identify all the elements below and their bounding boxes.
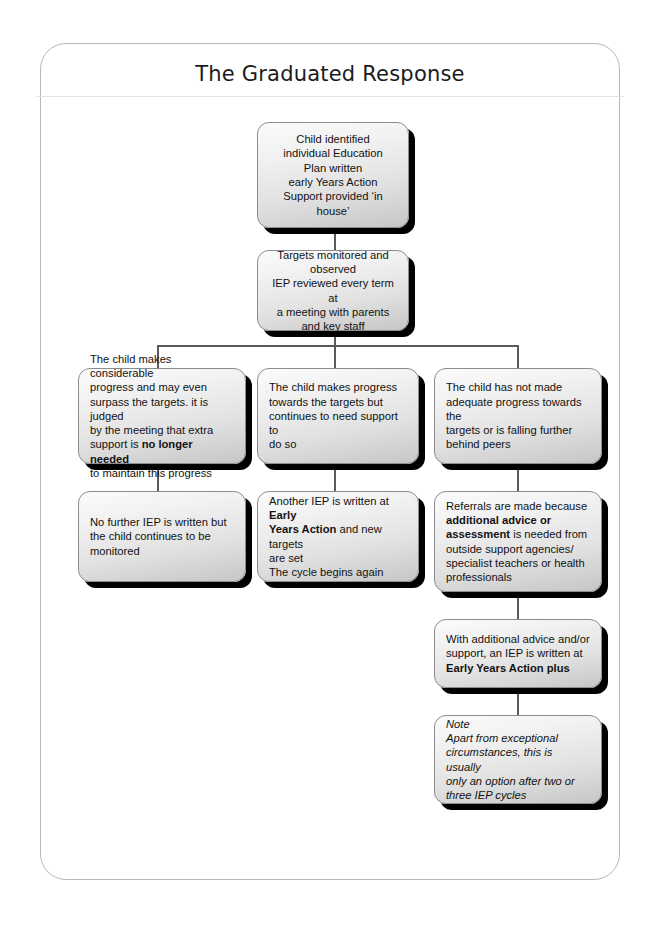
page-title: The Graduated Response	[0, 62, 660, 86]
text-line: a meeting with parents	[269, 305, 397, 319]
text-line: adequate progress towards the	[446, 395, 590, 424]
early-years-action-plus-box[interactable]: With additional advice and/orsupport, an…	[434, 619, 602, 688]
connector-split-to-n5	[517, 345, 519, 368]
text-line: are set	[269, 551, 407, 565]
text-line: observed	[269, 262, 397, 276]
note-box[interactable]: NoteApart from exceptionalcircumstances,…	[434, 715, 602, 804]
targets-monitored-box[interactable]: Targets monitored andobservedIEP reviewe…	[257, 250, 409, 331]
text-line: Years Action and new targets	[269, 522, 407, 551]
another-iep-box-text: Another IEP is written at EarlyYears Act…	[269, 494, 407, 580]
text-line: to maintain this progress	[90, 466, 234, 480]
text-line: The child makes progress	[269, 380, 407, 394]
connector-n5-to-n8	[517, 464, 519, 491]
text-line: Another IEP is written at Early	[269, 494, 407, 523]
makes-progress-needs-support-box-text: The child makes progresstowards the targ…	[269, 380, 407, 451]
text-line: The child has not made	[446, 380, 590, 394]
child-identified-box-text: Child identifiedindividual EducationPlan…	[269, 132, 397, 218]
text-line: Apart from exceptional	[446, 731, 590, 745]
text-line: Child identified	[269, 132, 397, 146]
text-line: additional advice or	[446, 513, 590, 527]
text-line: IEP reviewed every term at	[269, 276, 397, 305]
text-line: by the meeting that extra	[90, 423, 234, 437]
text-line: With additional advice and/or	[446, 632, 590, 646]
text-line: No further IEP is written but	[90, 515, 234, 529]
not-made-adequate-progress-box-text: The child has not madeadequate progress …	[446, 380, 590, 451]
text-line: assessment is needed from	[446, 527, 590, 541]
text-line: Support provided ‘in house’	[269, 189, 397, 218]
connector-n8-to-n9	[517, 592, 519, 619]
text-line: three IEP cycles	[446, 788, 590, 802]
referrals-made-box[interactable]: Referrals are made becauseadditional adv…	[434, 491, 602, 592]
child-identified-box[interactable]: Child identifiedindividual EducationPlan…	[257, 122, 409, 228]
text-line: progress and may even	[90, 380, 234, 394]
text-line: towards the targets but	[269, 395, 407, 409]
connector-n9-to-n10	[517, 688, 519, 715]
text-line: circumstances, this is usually	[446, 745, 590, 774]
text-line: only an option after two or	[446, 774, 590, 788]
no-further-iep-box-text: No further IEP is written butthe child c…	[90, 515, 234, 558]
connector-n4-to-n7	[334, 464, 336, 491]
text-line: Plan written	[269, 161, 397, 175]
text-line: professionals	[446, 570, 590, 584]
text-line: continues to need support to	[269, 409, 407, 438]
connector-split-to-n4	[334, 345, 336, 368]
text-line: The child makes considerable	[90, 352, 234, 381]
text-line: and key staff	[269, 319, 397, 333]
early-years-action-plus-box-text: With additional advice and/orsupport, an…	[446, 632, 590, 675]
text-line: targets or is falling further	[446, 423, 590, 437]
makes-progress-needs-support-box[interactable]: The child makes progresstowards the targ…	[257, 368, 419, 464]
text-line: The cycle begins again	[269, 565, 407, 579]
text-line: Early Years Action plus	[446, 661, 590, 675]
text-line: Targets monitored and	[269, 248, 397, 262]
text-line: outside support agencies/	[446, 542, 590, 556]
text-line: Note	[446, 717, 590, 731]
not-made-adequate-progress-box[interactable]: The child has not madeadequate progress …	[434, 368, 602, 464]
text-line: Referrals are made because	[446, 499, 590, 513]
text-line: specialist teachers or health	[446, 556, 590, 570]
title-divider	[36, 96, 624, 97]
connector-split-bar	[157, 345, 519, 347]
text-line: individual Education	[269, 146, 397, 160]
considerable-progress-box[interactable]: The child makes considerableprogress and…	[78, 368, 246, 464]
text-line: support is no longer needed	[90, 437, 234, 466]
text-line: behind peers	[446, 437, 590, 451]
another-iep-box[interactable]: Another IEP is written at EarlyYears Act…	[257, 491, 419, 582]
text-line: monitored	[90, 544, 234, 558]
text-line: early Years Action	[269, 175, 397, 189]
text-line: surpass the targets. it is judged	[90, 395, 234, 424]
text-line: support, an IEP is written at	[446, 646, 590, 660]
referrals-made-box-text: Referrals are made becauseadditional adv…	[446, 499, 590, 585]
targets-monitored-box-text: Targets monitored andobservedIEP reviewe…	[269, 248, 397, 334]
considerable-progress-box-text: The child makes considerableprogress and…	[90, 352, 234, 481]
text-line: the child continues to be	[90, 529, 234, 543]
note-box-text: NoteApart from exceptionalcircumstances,…	[446, 717, 590, 803]
text-line: do so	[269, 437, 407, 451]
no-further-iep-box[interactable]: No further IEP is written butthe child c…	[78, 491, 246, 582]
